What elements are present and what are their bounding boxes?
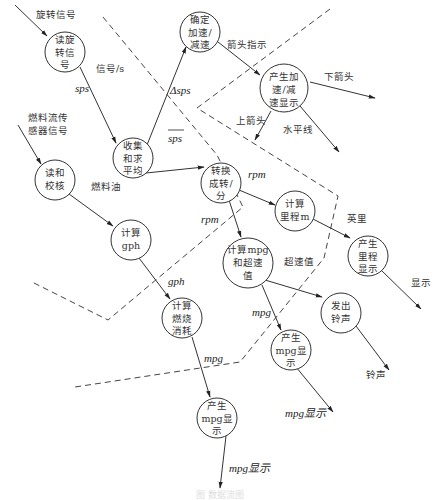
svg-text:减速: 减速 <box>190 39 210 50</box>
svg-text:消耗: 消耗 <box>172 325 192 336</box>
svg-text:成转/: 成转/ <box>209 178 233 189</box>
label-overspeed: 超速值 <box>284 256 314 267</box>
svg-text:转信: 转信 <box>55 47 75 58</box>
node-read-check: 读和 校核 <box>35 160 75 200</box>
svg-text:转换: 转换 <box>211 165 231 176</box>
svg-text:读和: 读和 <box>45 167 65 178</box>
label-display: 显示 <box>411 277 431 288</box>
flow-sps-avg <box>146 167 204 173</box>
node-read-rotation: 读旋 转信 号 <box>45 32 85 72</box>
svg-text:显示: 显示 <box>358 263 378 274</box>
svg-text:铃声: 铃声 <box>331 313 351 324</box>
flow-rpm-mileage <box>239 190 275 205</box>
label-arrow-indicator: 箭头指示 <box>227 39 267 50</box>
flow-down-arrow <box>310 82 375 98</box>
svg-text:值: 值 <box>243 270 253 281</box>
label-gph: gph <box>168 275 185 287</box>
label-down-arrow: 下箭头 <box>324 71 354 82</box>
svg-text:收集: 收集 <box>123 140 143 151</box>
svg-text:里程: 里程 <box>358 251 378 262</box>
label-sps: sps <box>75 82 89 94</box>
node-calc-mileage: 计算 里程m <box>275 191 315 231</box>
node-mileage-display: 产生 里程 显示 <box>348 236 388 276</box>
node-accel-display: 产生加 速/减 速显示 <box>260 64 308 112</box>
flow-mileage-display <box>381 270 421 309</box>
svg-text:示: 示 <box>286 357 296 368</box>
label-up-arrow: 上箭头 <box>236 115 266 126</box>
label-bell: 铃声 <box>366 369 386 380</box>
svg-text:速/减: 速/减 <box>272 84 295 95</box>
label-sps-avg: sps <box>168 132 182 144</box>
svg-text:发出: 发出 <box>331 300 351 311</box>
flow-gph <box>139 258 170 299</box>
flow-mpg-display-out-2 <box>220 436 226 488</box>
label-miles: 英里 <box>347 213 367 224</box>
node-sound-bell: 发出 铃声 <box>321 293 361 333</box>
label-mpg-display-out-1: mpg显示 <box>285 407 327 419</box>
svg-text:加速/: 加速/ <box>188 27 212 38</box>
node-determine-accel: 确定 加速/ 减速 <box>180 12 220 52</box>
svg-text:和求: 和求 <box>123 153 143 164</box>
label-fuel-sensor-2: 感器信号 <box>28 125 68 136</box>
svg-text:里程m: 里程m <box>280 211 309 222</box>
svg-text:计算: 计算 <box>121 227 141 238</box>
label-fuel-sensor-1: 燃料流传 <box>28 112 68 123</box>
svg-text:mpg显: mpg显 <box>275 345 306 356</box>
label-horizontal-line: 水平线 <box>283 124 313 135</box>
figure-caption: 图 数据流图 <box>196 489 244 500</box>
svg-text:速显示: 速显示 <box>269 97 299 108</box>
svg-text:产生: 产生 <box>358 238 378 249</box>
svg-text:读旋: 读旋 <box>55 34 75 45</box>
label-fuel-oil: 燃料油 <box>91 181 121 192</box>
node-convert-rpm: 转换 成转/ 分 <box>201 163 241 203</box>
label-rpm-2: rpm <box>201 213 219 225</box>
flow-bell <box>356 326 389 370</box>
label-mpg-1: mpg <box>252 306 271 318</box>
svg-text:计算: 计算 <box>172 300 192 311</box>
flow-overspeed <box>265 280 322 297</box>
svg-text:产生加: 产生加 <box>269 71 299 82</box>
node-calc-fuel: 计算 燃烧 消耗 <box>162 298 202 338</box>
svg-text:燃烧: 燃烧 <box>172 313 192 324</box>
label-rpm-1: rpm <box>248 168 266 180</box>
svg-text:和超速: 和超速 <box>233 257 263 268</box>
flow-miles <box>313 219 350 238</box>
node-collect-average: 收集 和求 平均 <box>113 138 153 178</box>
svg-text:计算mpg: 计算mpg <box>227 244 268 255</box>
node-calc-gph: 计算 gph <box>111 220 151 260</box>
svg-text:平均: 平均 <box>123 165 143 176</box>
flow-rpm-mpg <box>229 200 241 237</box>
svg-text:计算: 计算 <box>285 198 305 209</box>
svg-text:校核: 校核 <box>45 180 65 191</box>
node-calc-mpg-speed: 计算mpg 和超速 值 <box>223 238 273 288</box>
svg-text:确定: 确定 <box>190 14 210 25</box>
flow-mpg-display-out-1 <box>296 367 333 412</box>
flow-sps <box>80 67 116 143</box>
label-mpg-display-out-2: mpg显示 <box>229 462 271 474</box>
node-mpg-display-2: 产生 mpg显 示 <box>197 398 237 438</box>
data-flow-diagram: 读旋 转信 号 收集 和求 平均 确定 加速/ 减速 产生加 速/减 速显示 转… <box>0 0 438 500</box>
label-signal-per-s: 信号/s <box>96 63 124 74</box>
svg-text:示: 示 <box>212 425 222 436</box>
flow-fuel-oil <box>69 194 113 226</box>
svg-text:号: 号 <box>60 59 70 70</box>
svg-text:产生: 产生 <box>281 332 301 343</box>
label-rotation-signal: 旋转信号 <box>36 9 76 20</box>
svg-text:分: 分 <box>216 190 226 201</box>
svg-text:mpg显: mpg显 <box>201 413 232 424</box>
label-delta-sps: Δsps <box>169 84 191 96</box>
svg-text:gph: gph <box>122 240 140 251</box>
node-mpg-display-1: 产生 mpg显 示 <box>271 330 311 370</box>
svg-text:产生: 产生 <box>207 400 227 411</box>
label-mpg-2: mpg <box>204 352 223 364</box>
